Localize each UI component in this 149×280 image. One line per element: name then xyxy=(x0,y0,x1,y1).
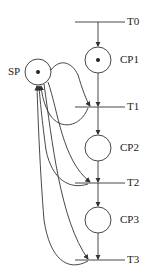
label-cp3: CP3 xyxy=(120,214,139,225)
token-cp1 xyxy=(96,58,100,62)
label-t1: T1 xyxy=(127,101,139,112)
place-cp3 xyxy=(85,207,111,233)
label-cp2: CP2 xyxy=(120,142,139,153)
label-t3: T3 xyxy=(127,254,139,265)
arc-sp-t1 xyxy=(51,63,90,106)
arc-t3-sp xyxy=(37,86,88,265)
arc-t1-sp xyxy=(41,86,88,125)
token-sp xyxy=(36,70,40,74)
label-sp: SP xyxy=(8,66,20,77)
label-t0: T0 xyxy=(127,16,139,27)
place-cp2 xyxy=(85,135,111,161)
petri-net-diagram: T0 CP1 SP T1 CP2 T2 CP3 T3 xyxy=(0,0,149,280)
label-t2: T2 xyxy=(127,177,139,188)
arc-sp-t2 xyxy=(48,82,90,182)
label-cp1: CP1 xyxy=(120,54,139,65)
arc-sp-t3 xyxy=(44,84,88,259)
petri-net-canvas xyxy=(0,0,149,280)
